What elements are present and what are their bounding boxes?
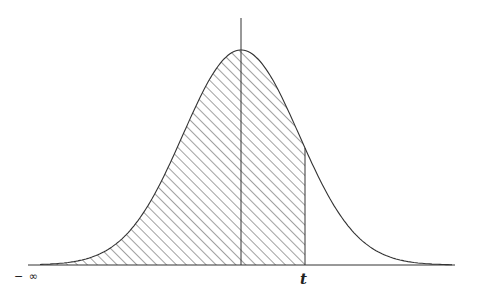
normal-curve-diagram: [0, 0, 480, 298]
negative-infinity-label: − ∞: [14, 270, 39, 283]
t-label: t: [300, 270, 307, 288]
shaded-area: [40, 50, 452, 265]
